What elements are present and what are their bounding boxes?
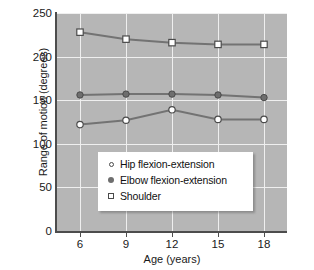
y-tick-150: 150 — [18, 94, 52, 106]
data-point-marker — [215, 41, 221, 47]
x-tick-12: 12 — [166, 238, 179, 250]
x-tickmark-18 — [264, 233, 265, 237]
data-point-marker — [77, 121, 83, 127]
legend-item-shoulder: Shoulder — [105, 188, 253, 204]
data-point-marker — [261, 116, 267, 122]
x-tick-18: 18 — [258, 238, 271, 250]
data-point-marker — [169, 91, 175, 97]
data-point-marker — [123, 117, 129, 123]
x-tickmark-12 — [172, 233, 173, 237]
y-tick-100: 100 — [18, 138, 52, 150]
data-point-marker — [261, 41, 267, 47]
chart-legend: Hip flexion-extension Elbow flexion-exte… — [98, 152, 253, 211]
x-axis-title: Age (years) — [57, 253, 287, 265]
x-axis-line — [55, 231, 287, 233]
range-of-motion-line-chart: Range of motion (degrees) 05010015020025… — [0, 0, 314, 270]
x-tickmark-9 — [126, 233, 127, 237]
open-square-marker-icon — [105, 193, 117, 199]
data-point-marker — [169, 107, 175, 113]
data-point-marker — [123, 91, 129, 97]
legend-label-shoulder: Shoulder — [120, 190, 161, 202]
data-point-marker — [261, 94, 267, 100]
y-tick-200: 200 — [18, 51, 52, 63]
data-point-marker — [77, 29, 83, 35]
data-point-marker — [169, 39, 175, 45]
legend-label-elbow: Elbow flexion-extension — [120, 174, 227, 186]
data-point-marker — [123, 36, 129, 42]
x-tickmark-15 — [218, 233, 219, 237]
legend-item-hip: Hip flexion-extension — [105, 156, 253, 172]
x-tick-6: 6 — [77, 238, 83, 250]
data-point-marker — [215, 92, 221, 98]
filled-circle-marker-icon — [105, 177, 117, 183]
data-point-marker — [77, 92, 83, 98]
data-point-marker — [215, 116, 221, 122]
y-tick-0: 0 — [18, 225, 52, 237]
legend-label-hip: Hip flexion-extension — [120, 158, 214, 170]
legend-item-elbow: Elbow flexion-extension — [105, 172, 253, 188]
y-axis-tick-labels: 050100150200250 — [18, 0, 52, 270]
y-tick-50: 50 — [18, 181, 52, 193]
x-tick-15: 15 — [212, 238, 225, 250]
y-tick-250: 250 — [18, 7, 52, 19]
open-circle-marker-icon — [105, 162, 117, 167]
x-tick-9: 9 — [123, 238, 129, 250]
x-tickmark-6 — [80, 233, 81, 237]
